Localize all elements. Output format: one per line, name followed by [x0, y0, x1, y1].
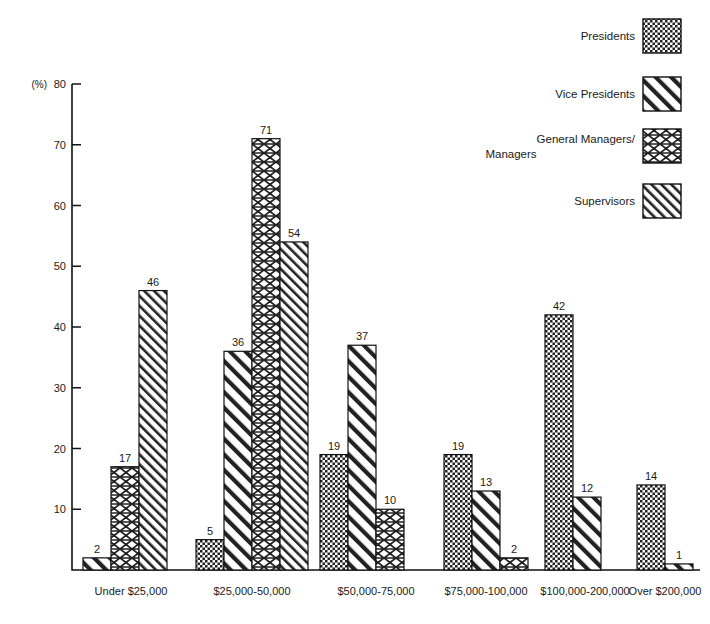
y-tick-label: 30	[54, 382, 66, 394]
bar-value-label: 19	[452, 440, 464, 452]
bar-value-label: 46	[147, 276, 159, 288]
bar-chart: PresidentsVice PresidentsGeneral Manager…	[0, 0, 710, 624]
legend-swatch-2	[643, 129, 681, 163]
bar: 14	[637, 470, 665, 570]
bar: 54	[280, 227, 308, 570]
bar: 37	[348, 330, 376, 570]
chart-container: PresidentsVice PresidentsGeneral Manager…	[0, 0, 710, 624]
bar-rect-3	[280, 242, 308, 570]
bar-value-label: 42	[553, 300, 565, 312]
bar: 36	[224, 336, 252, 570]
bar-rect-2	[111, 467, 139, 570]
bar-value-label: 12	[581, 482, 593, 494]
bar-value-label: 36	[232, 336, 244, 348]
bar: 2	[83, 543, 111, 570]
bar-value-label: 71	[260, 124, 272, 136]
bar: 19	[444, 440, 472, 570]
bar-rect-2	[252, 139, 280, 570]
y-tick-label: 60	[54, 200, 66, 212]
y-tick-label: 20	[54, 443, 66, 455]
bar: 2	[500, 543, 528, 570]
bar: 71	[252, 124, 280, 570]
x-category-label: $75,000-100,000	[444, 585, 527, 597]
bar-value-label: 5	[207, 525, 213, 537]
bar-value-label: 2	[511, 543, 517, 555]
bar-rect-1	[665, 564, 693, 570]
bar-value-label: 17	[119, 452, 131, 464]
bar: 1	[665, 549, 693, 570]
bar: 42	[545, 300, 573, 570]
legend-label-2: General Managers/	[537, 133, 636, 145]
x-category-label: Over $200,000	[629, 585, 702, 597]
legend-swatch-3	[643, 184, 681, 218]
bar-rect-0	[196, 540, 224, 570]
bar-value-label: 10	[384, 494, 396, 506]
bar-rect-1	[573, 497, 601, 570]
legend-label-3: Supervisors	[574, 195, 635, 207]
legend-swatch-1	[643, 77, 681, 111]
bar-value-label: 37	[356, 330, 368, 342]
bar-rect-1	[83, 558, 111, 570]
legend-label-1: Vice Presidents	[555, 88, 635, 100]
bar-rect-0	[545, 315, 573, 570]
bar: 17	[111, 452, 139, 570]
bar-value-label: 1	[676, 549, 682, 561]
bar: 5	[196, 525, 224, 570]
bar-rect-1	[224, 351, 252, 570]
y-tick-label: 70	[54, 139, 66, 151]
bar: 19	[320, 440, 348, 570]
y-axis-unit-label: (%)	[31, 79, 47, 90]
bar-value-label: 19	[328, 440, 340, 452]
bar-rect-0	[320, 455, 348, 570]
legend-label-2-line2: Managers	[485, 148, 536, 160]
legend-swatch-0	[643, 19, 681, 53]
bars-layer: 217465367154193710191324212141	[83, 124, 693, 570]
bar-rect-1	[472, 491, 500, 570]
x-category-label: $25,000-50,000	[213, 585, 290, 597]
y-tick-label: 50	[54, 260, 66, 272]
bar-value-label: 54	[288, 227, 300, 239]
bar: 10	[376, 494, 404, 570]
x-category-label: $50,000-75,000	[337, 585, 414, 597]
y-tick-label: 80	[54, 78, 66, 90]
bar: 13	[472, 476, 500, 570]
legend: PresidentsVice PresidentsGeneral Manager…	[485, 19, 681, 218]
bar-rect-1	[348, 345, 376, 570]
y-tick-label: 10	[54, 503, 66, 515]
y-tick-label: 40	[54, 321, 66, 333]
bar-rect-0	[637, 485, 665, 570]
bar-rect-2	[500, 558, 528, 570]
x-category-label: Under $25,000	[95, 585, 168, 597]
x-axis-labels: Under $25,000$25,000-50,000$50,000-75,00…	[95, 585, 702, 597]
x-category-label: $100,000-200,000	[540, 585, 629, 597]
bar-value-label: 13	[480, 476, 492, 488]
bar-rect-2	[376, 509, 404, 570]
bar: 12	[573, 482, 601, 570]
bar-value-label: 14	[645, 470, 657, 482]
bar-rect-0	[444, 455, 472, 570]
legend-label-0: Presidents	[581, 30, 636, 42]
bar: 46	[139, 276, 167, 570]
bar-value-label: 2	[94, 543, 100, 555]
bar-rect-3	[139, 291, 167, 570]
